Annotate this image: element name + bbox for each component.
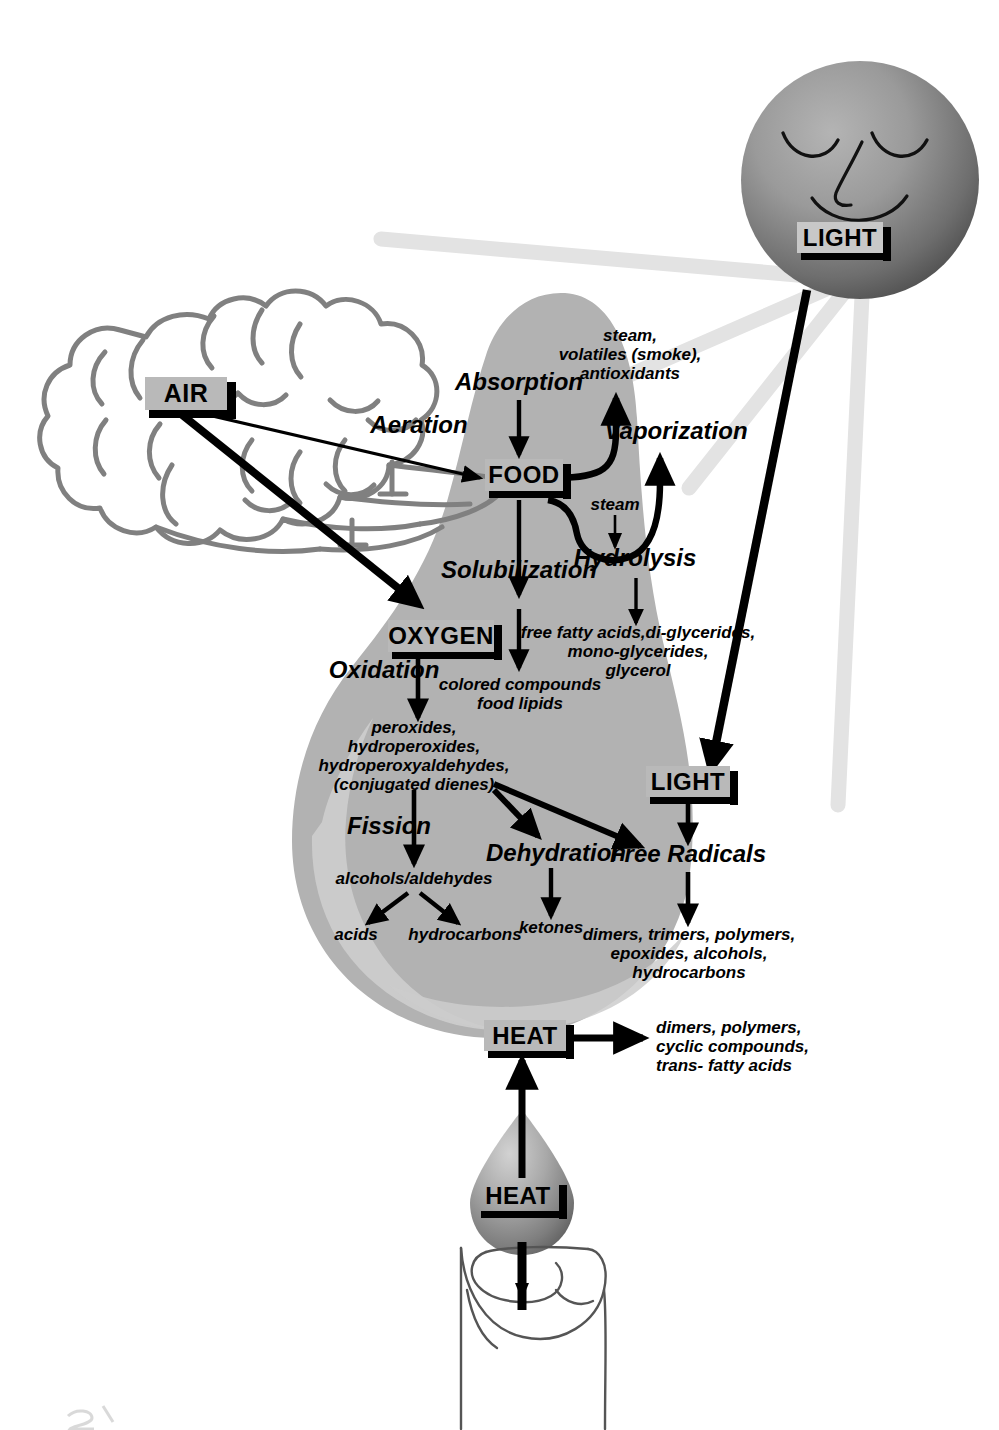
tag-light-sun[interactable]: LIGHT <box>797 222 883 253</box>
label-dehydration: Dehydration <box>486 840 626 867</box>
label-aeration: Aeration <box>370 412 467 439</box>
tag-food-label: FOOD <box>488 461 559 489</box>
label-heat-products: dimers, polymers, cyclic compounds, tran… <box>656 1018 809 1075</box>
diagram-canvas: AIR FOOD OXYGEN LIGHT LIGHT HEAT HEAT Ab… <box>0 0 999 1430</box>
arrow-air-to-oxygen <box>176 410 418 604</box>
tag-heat-pan-label: HEAT <box>492 1022 558 1050</box>
label-solubilization-products: colored compounds food lipids <box>439 675 601 713</box>
label-fission-products: alcohols/aldehydes <box>336 869 493 888</box>
label-vaporization: Vaporization <box>604 418 747 445</box>
tag-air[interactable]: AIR <box>145 377 227 410</box>
label-solubilization: Solubilization <box>441 557 597 584</box>
tag-light-lower-label: LIGHT <box>651 768 726 796</box>
tag-oxygen-label: OXYGEN <box>388 622 494 650</box>
label-oxidation-products: peroxides, hydroperoxides, hydroperoxyal… <box>319 718 510 794</box>
tag-heat-drop-label: HEAT <box>485 1182 551 1210</box>
label-free-radicals: Free Radicals <box>610 841 766 868</box>
label-vaporization-products: steam, volatiles (smoke), antioxidants <box>559 326 702 383</box>
tag-heat-pan[interactable]: HEAT <box>484 1020 566 1051</box>
arrow-to-hydrocarbons <box>420 893 458 923</box>
tag-heat-drop[interactable]: HEAT <box>477 1180 559 1211</box>
label-hydrocarbons: hydrocarbons <box>408 925 521 944</box>
arrow-sun-to-light <box>711 290 807 768</box>
tag-air-label: AIR <box>164 379 209 408</box>
tag-food[interactable]: FOOD <box>485 459 563 491</box>
label-ketones: ketones <box>519 918 583 937</box>
arrow-to-acids <box>368 893 408 923</box>
label-acids: acids <box>334 925 377 944</box>
label-oxidation: Oxidation <box>329 657 440 684</box>
label-steam: steam <box>590 495 639 514</box>
tag-light-sun-label: LIGHT <box>803 224 878 252</box>
tag-oxygen[interactable]: OXYGEN <box>388 620 494 652</box>
label-hydrolysis-products: free fatty acids,di-glycerides, mono-gly… <box>521 623 755 680</box>
tag-light-lower[interactable]: LIGHT <box>646 766 730 797</box>
label-fission: Fission <box>347 813 431 840</box>
label-free-radical-products: dimers, trimers, polymers, epoxides, alc… <box>583 925 796 982</box>
